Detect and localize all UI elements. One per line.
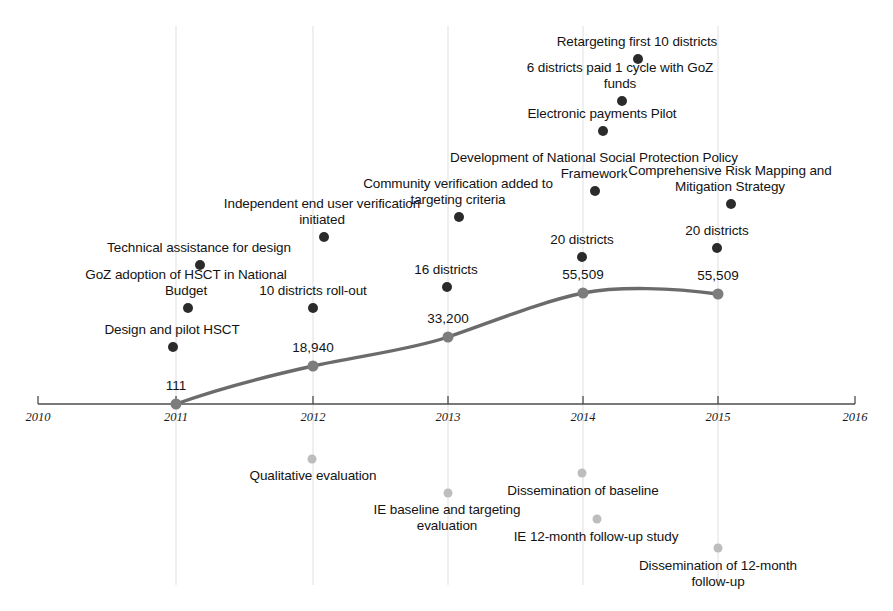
- data-point-2014: [578, 288, 589, 299]
- data-point-2011: [171, 399, 182, 410]
- eval-label-dissemination-12-month-followup: Dissemination of 12-month follow-up: [603, 558, 833, 589]
- milestone-dot-technical-assistance: [195, 260, 205, 270]
- axis-label-2012: 2012: [301, 410, 326, 425]
- eval-dot-dissemination-12-month-followup: [714, 544, 723, 553]
- data-point-2015: [713, 289, 724, 300]
- data-point-2013: [443, 332, 454, 343]
- milestone-label-electronic-payments-pilot: Electronic payments Pilot: [477, 106, 727, 122]
- milestone-label-16-districts: 16 districts: [366, 262, 526, 278]
- milestone-dot-independent-verification: [319, 232, 329, 242]
- milestone-label-20-districts-2015: 20 districts: [637, 223, 797, 239]
- value-label-2014: 55,509: [562, 267, 603, 282]
- milestone-dot-risk-mapping-strategy: [726, 199, 736, 209]
- eval-label-dissemination-baseline: Dissemination of baseline: [473, 483, 693, 499]
- data-point-2012: [308, 361, 319, 372]
- data-line: [176, 289, 718, 404]
- value-label-2015: 55,509: [697, 268, 738, 283]
- axis-label-2011: 2011: [164, 410, 188, 425]
- milestone-dot-design-pilot-hsct: [168, 342, 178, 352]
- milestone-dot-20-districts-2015: [712, 243, 722, 253]
- milestone-label-6-districts-goz-funds: 6 districts paid 1 cycle with GoZ funds: [485, 60, 755, 91]
- axis-label-2014: 2014: [571, 410, 596, 425]
- milestone-dot-6-districts-goz-funds: [617, 96, 627, 106]
- axis-label-2013: 2013: [436, 410, 461, 425]
- timeline-chart: 2010 2011 2012 2013 2014 2015 2016 111 1…: [0, 0, 893, 611]
- axis-label-2015: 2015: [706, 410, 731, 425]
- milestone-label-10-districts-rollout: 10 districts roll-out: [208, 283, 418, 299]
- eval-dot-ie-12-month-followup-study: [593, 515, 602, 524]
- eval-label-ie-12-month-followup-study: IE 12-month follow-up study: [476, 529, 716, 545]
- milestone-dot-16-districts: [442, 282, 452, 292]
- milestone-dot-community-verification: [454, 212, 464, 222]
- milestone-label-risk-mapping-strategy: Comprehensive Risk Mapping and Mitigatio…: [595, 163, 865, 194]
- milestone-dot-retargeting-first-10-districts: [633, 54, 643, 64]
- milestone-label-design-pilot-hsct: Design and pilot HSCT: [62, 322, 282, 338]
- milestone-label-technical-assistance: Technical assistance for design: [74, 240, 324, 256]
- axis-label-2010: 2010: [26, 410, 51, 425]
- eval-dot-ie-baseline-targeting: [444, 489, 453, 498]
- milestone-dot-10-districts-rollout: [308, 303, 318, 313]
- eval-dot-dissemination-baseline: [578, 469, 587, 478]
- milestone-dot-electronic-payments-pilot: [598, 126, 608, 136]
- axis-label-2016: 2016: [843, 410, 868, 425]
- milestone-label-retargeting-first-10-districts: Retargeting first 10 districts: [507, 34, 767, 50]
- x-axis: [38, 396, 855, 404]
- eval-dot-qualitative-evaluation: [308, 455, 317, 464]
- milestone-dot-20-districts-2014: [577, 252, 587, 262]
- value-label-2013: 33,200: [427, 311, 468, 326]
- milestone-dot-goz-adoption: [183, 303, 193, 313]
- value-label-2011: 111: [166, 378, 187, 393]
- eval-label-qualitative-evaluation: Qualitative evaluation: [206, 468, 421, 484]
- value-label-2012: 18,940: [292, 340, 333, 355]
